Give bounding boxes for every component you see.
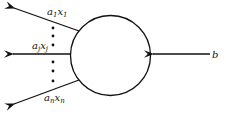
label-a1x1: a1x1 [47, 6, 68, 19]
label-b: b [212, 49, 218, 60]
label-ajxj: ajxj [32, 40, 49, 53]
diagram: a1x1 ajxj anxn b [0, 0, 226, 114]
label-anxn: anxn [44, 92, 65, 105]
node-circle [71, 16, 151, 96]
node-diagram: a1x1 ajxj anxn b [0, 0, 226, 114]
